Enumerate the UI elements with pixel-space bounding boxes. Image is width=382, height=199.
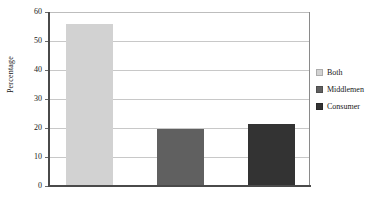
- legend-label: Consumer: [327, 102, 360, 111]
- gridline: [48, 12, 310, 13]
- legend-swatch-icon: [316, 103, 323, 110]
- legend-item: Middlemen: [316, 81, 382, 98]
- bar-both: [66, 24, 113, 185]
- plot-right-border: [309, 12, 310, 186]
- y-axis-line: [48, 12, 50, 186]
- bar-chart: Percentage 6050403020100 BothMiddlemenCo…: [0, 0, 382, 199]
- legend-label: Middlemen: [327, 85, 364, 94]
- x-axis-line: [48, 185, 311, 187]
- y-tick-label: 60: [20, 8, 42, 16]
- y-tick-label: 30: [20, 95, 42, 103]
- legend-label: Both: [327, 68, 343, 77]
- bar-middlemen: [157, 129, 204, 185]
- y-tick-label: 10: [20, 153, 42, 161]
- legend-item: Both: [316, 64, 382, 81]
- y-tick-label: 0: [20, 182, 42, 190]
- bar-consumer: [248, 124, 295, 185]
- legend-item: Consumer: [316, 98, 382, 115]
- y-axis-title: Percentage: [6, 39, 15, 111]
- plot-area: [48, 12, 310, 186]
- legend-swatch-icon: [316, 69, 323, 76]
- legend-swatch-icon: [316, 86, 323, 93]
- y-tick-label: 50: [20, 37, 42, 45]
- y-tick-label: 20: [20, 124, 42, 132]
- chart-legend: BothMiddlemenConsumer: [316, 64, 382, 115]
- y-tick-label: 40: [20, 66, 42, 74]
